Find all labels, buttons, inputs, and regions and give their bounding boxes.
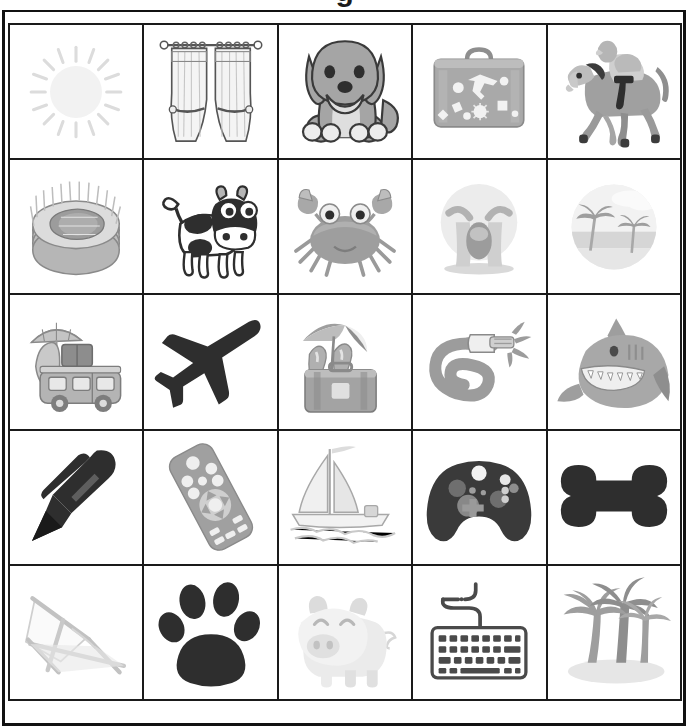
grid-cell-pig[interactable]: Pig xyxy=(279,566,411,699)
grid-cell-cow[interactable]: Cow xyxy=(144,160,276,293)
camper-van-icon xyxy=(14,305,138,419)
grid-cell-beach-scene[interactable]: Beach scene xyxy=(548,160,680,293)
horse-jockey-icon xyxy=(553,34,675,150)
grid-cell-pen[interactable]: Pen xyxy=(10,431,142,564)
grid-cell-camper-van[interactable]: Camper van with surfboard xyxy=(10,295,142,428)
deck-chair-icon xyxy=(15,576,137,688)
suitcase-icon xyxy=(419,37,539,147)
grid-cell-shark[interactable]: Shark xyxy=(548,295,680,428)
grid-cell-suitcase[interactable]: Suitcase xyxy=(413,25,545,158)
pig-icon xyxy=(284,576,406,688)
picture-grid: Sun Curtains xyxy=(8,23,682,701)
grid-cell-paw-print[interactable]: Paw print xyxy=(144,566,276,699)
keyboard-icon xyxy=(419,574,539,690)
paw-print-icon xyxy=(153,574,269,690)
game-controller-icon xyxy=(418,442,540,552)
grid-cell-palm-trees[interactable]: Palm trees on island xyxy=(548,566,680,699)
grid-cell-beach-luggage[interactable]: Luggage with flip flops and umbrella xyxy=(279,295,411,428)
sailboat-icon xyxy=(284,440,406,554)
grid-cell-sailboat[interactable]: Sailboat xyxy=(279,431,411,564)
grid-cell-curtains[interactable]: Curtains xyxy=(144,25,276,158)
grid-cell-game-controller[interactable]: Game controller xyxy=(413,431,545,564)
sun-icon xyxy=(17,33,135,151)
dog-icon xyxy=(285,33,405,151)
remote-control-icon xyxy=(151,438,271,556)
airplane-icon xyxy=(153,306,269,418)
grid-cell-deck-chair[interactable]: Deck chair xyxy=(10,566,142,699)
grid-cell-remote-control[interactable]: TV remote control xyxy=(144,431,276,564)
shark-icon xyxy=(553,305,675,419)
grid-cell-garden-hose[interactable]: Garden hose xyxy=(413,295,545,428)
dog-bone-icon xyxy=(552,449,676,545)
grid-cell-stadium[interactable]: Stadium xyxy=(10,160,142,293)
stadium-icon xyxy=(15,174,137,280)
curtains-icon xyxy=(155,32,267,152)
grid-cell-sun[interactable]: Sun xyxy=(10,25,142,158)
grid-cell-crab[interactable]: Crab xyxy=(279,160,411,293)
page-title: g xyxy=(0,0,690,8)
grid-cell-dog[interactable]: Dog xyxy=(279,25,411,158)
crying-face-icon xyxy=(421,169,537,285)
cow-icon xyxy=(152,171,270,283)
pen-icon xyxy=(18,439,134,555)
grid-cell-dog-bone[interactable]: Dog bone xyxy=(548,431,680,564)
grid-cell-crying-face[interactable]: Loudly crying face xyxy=(413,160,545,293)
beach-luggage-icon xyxy=(285,303,405,421)
palm-trees-icon xyxy=(552,575,676,689)
garden-hose-icon xyxy=(418,306,540,418)
grid-cell-keyboard[interactable]: Keyboard xyxy=(413,566,545,699)
beach-scene-icon xyxy=(555,168,673,286)
grid-cell-horse-jockey[interactable]: Horse with jockey xyxy=(548,25,680,158)
grid-cell-airplane[interactable]: Airplane xyxy=(144,295,276,428)
crab-icon xyxy=(285,172,405,282)
